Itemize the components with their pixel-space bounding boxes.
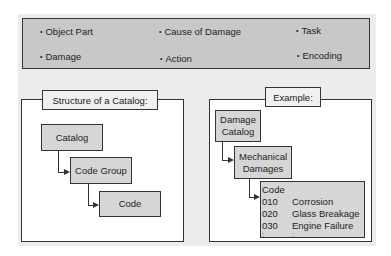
continuation-dots: : xyxy=(292,230,294,239)
code-row: 030Engine Failure xyxy=(262,220,364,232)
code-number: 010 xyxy=(262,196,292,208)
code-row: 010Corrosion xyxy=(262,196,364,208)
catalog-categories-box: Object Part Cause of Damage Task Damage … xyxy=(22,18,370,69)
code-label: Glass Breakage xyxy=(292,208,360,219)
code-number: 030 xyxy=(262,220,292,232)
code-node: Code xyxy=(99,191,161,217)
code-list-box: Code 010Corrosion 020Glass Breakage 030E… xyxy=(260,181,365,238)
mechanical-damages-node: Mechanical Damages xyxy=(234,146,292,179)
code-label: Corrosion xyxy=(292,196,333,207)
category-cause-of-damage: Cause of Damage xyxy=(159,26,241,37)
connector-line xyxy=(58,151,59,173)
code-header: Code xyxy=(262,184,364,196)
category-encoding: Encoding xyxy=(297,50,342,61)
code-number: 020 xyxy=(262,208,292,220)
continuation-row: :: xyxy=(262,232,364,244)
catalog-node: Catalog xyxy=(41,124,103,151)
code-row: 020Glass Breakage xyxy=(262,208,364,220)
example-panel-title: Example: xyxy=(265,87,321,107)
connector-line xyxy=(222,142,223,161)
damage-catalog-node: Damage Catalog xyxy=(215,110,261,142)
structure-panel-title: Structure of a Catalog: xyxy=(42,90,158,110)
code-label: Engine Failure xyxy=(292,220,353,231)
category-damage: Damage xyxy=(40,51,81,62)
category-action: Action xyxy=(160,53,192,64)
category-object-part: Object Part xyxy=(40,26,93,37)
continuation-dots: : xyxy=(262,232,292,237)
connector-line xyxy=(88,184,89,206)
connector-line xyxy=(249,179,250,198)
code-group-node: Code Group xyxy=(70,157,132,184)
category-task: Task xyxy=(296,25,321,36)
